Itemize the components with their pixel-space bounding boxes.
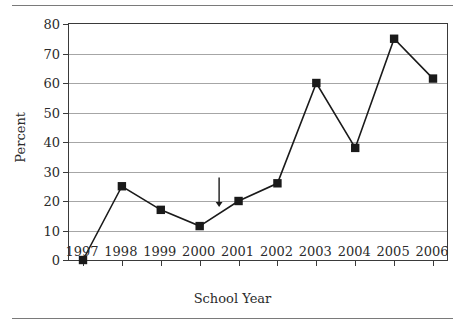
x-axis-title: School Year [0, 291, 465, 306]
y-axis-tick-label: 30 [43, 165, 60, 178]
x-axis-tick [239, 260, 240, 266]
x-axis-tick-label: 2000 [182, 245, 215, 258]
x-axis-tick-label: 2004 [338, 245, 371, 258]
arrow-head [216, 202, 223, 207]
top-rule [12, 5, 453, 6]
y-axis-tick-label: 60 [43, 77, 60, 90]
annotation-arrow-icon [69, 24, 447, 260]
x-axis-tick-label: 2005 [377, 245, 410, 258]
y-axis-tick-label: 20 [43, 195, 60, 208]
figure-container: Percent 01020304050607080 19971998199920… [0, 0, 465, 325]
x-axis-tick-label: 2002 [260, 245, 293, 258]
y-axis-tick [63, 260, 69, 261]
y-axis-title: Percent [14, 112, 27, 163]
x-axis-tick-label: 2001 [221, 245, 254, 258]
x-axis-tick-label: 2006 [415, 245, 448, 258]
y-axis-tick-label: 80 [43, 18, 60, 31]
x-axis-tick-label: 2003 [299, 245, 332, 258]
x-axis-tick [394, 260, 395, 266]
x-axis-tick [277, 260, 278, 266]
y-axis-tick-label: 70 [43, 47, 60, 60]
x-axis-tick-label: 1999 [143, 245, 176, 258]
x-axis-tick [122, 260, 123, 266]
y-axis-tick-label: 0 [52, 254, 60, 267]
y-axis-tick-label: 40 [43, 136, 60, 149]
bottom-rule [12, 318, 453, 319]
x-axis-tick [316, 260, 317, 266]
y-axis-tick-label: 50 [43, 106, 60, 119]
y-axis-tick-label: 10 [43, 224, 60, 237]
x-axis-tick [433, 260, 434, 266]
x-axis-tick [200, 260, 201, 266]
x-axis-tick [161, 260, 162, 266]
x-axis-tick-label: 1998 [104, 245, 137, 258]
x-axis-tick [355, 260, 356, 266]
x-axis-tick-label: 1997 [65, 245, 98, 258]
plot-area: 01020304050607080 [68, 23, 448, 261]
